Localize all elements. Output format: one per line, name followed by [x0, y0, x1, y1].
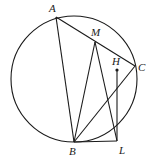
segment-bm: [74, 42, 95, 142]
label-point-a: A: [48, 2, 56, 14]
segment-ab: [56, 17, 74, 142]
circumcircle: [11, 16, 137, 142]
segment-ac: [56, 17, 135, 66]
point-labels: AMCHBL: [48, 2, 146, 157]
geometry-diagram: AMCHBL: [0, 0, 150, 161]
label-point-m: M: [90, 26, 101, 38]
diagram-canvas: AMCHBL: [0, 0, 150, 161]
label-point-c: C: [138, 61, 146, 73]
label-point-h: H: [111, 55, 121, 67]
point-h-dot: [115, 68, 118, 71]
label-point-l: L: [118, 144, 125, 156]
label-point-b: B: [69, 145, 76, 157]
segment-bc: [74, 66, 135, 142]
